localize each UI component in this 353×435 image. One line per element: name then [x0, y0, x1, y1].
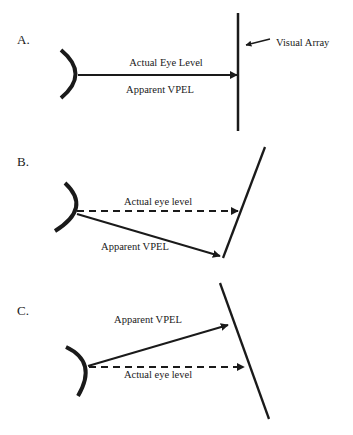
- visual-array-label: Visual Array: [276, 37, 330, 48]
- apparent-vpel-label: Apparent VPEL: [101, 241, 169, 252]
- actual-eye-level-label: Actual eye level: [124, 196, 192, 207]
- panel-c: C. Apparent VPEL Actual eye level: [17, 283, 269, 419]
- apparent-vpel-label: Apparent VPEL: [126, 84, 194, 95]
- panel-c-label: C.: [17, 303, 29, 318]
- eye-icon: [61, 50, 76, 98]
- actual-eye-level-label: Actual eye level: [124, 369, 192, 380]
- actual-eye-level-label: Actual Eye Level: [129, 57, 203, 68]
- apparent-vpel-label: Apparent VPEL: [114, 314, 182, 325]
- panel-b: B. Actual eye level Apparent VPEL: [17, 147, 265, 258]
- eye-icon: [55, 183, 76, 231]
- panel-a-label: A.: [17, 32, 30, 47]
- visual-array-line: [223, 147, 265, 258]
- pointer-arrow-icon: [246, 39, 270, 45]
- panel-a: A. Visual Array Actual Eye Level Apparen…: [17, 13, 330, 131]
- panel-b-label: B.: [17, 154, 29, 169]
- vpel-diagram: A. Visual Array Actual Eye Level Apparen…: [0, 0, 353, 435]
- eye-icon: [66, 347, 86, 396]
- visual-array-line: [220, 283, 269, 419]
- apparent-vpel-arrow: [88, 325, 228, 366]
